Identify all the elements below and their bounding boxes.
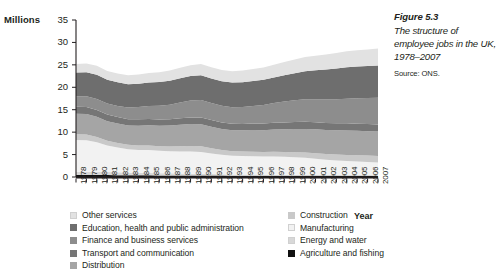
- legend-item-label: Other services: [82, 211, 137, 220]
- legend-item-label: Finance and business services: [82, 236, 198, 245]
- legend-column-left: Other servicesEducation, health and publ…: [70, 209, 244, 272]
- y-axis-tick-label: 30: [48, 36, 68, 47]
- y-axis-tick-label: 0: [48, 171, 68, 182]
- legend-item[interactable]: Manufacturing: [288, 222, 384, 235]
- x-axis-tick-label: 1978: [79, 167, 88, 184]
- legend-swatch-icon: [288, 224, 295, 231]
- x-axis-tick-label: 1987: [173, 167, 182, 184]
- legend-item-label: Agriculture and fishing: [300, 249, 384, 258]
- figure-source: Source: ONS.: [394, 68, 498, 79]
- x-axis-tick-label: 2001: [319, 167, 328, 184]
- stacked-area-chart: Millions 05101520253035 1978197919801981…: [0, 0, 390, 200]
- x-axis-tick-label: 1998: [287, 167, 296, 184]
- x-axis-tick-label: 1980: [100, 167, 109, 184]
- legend-item-label: Construction: [300, 211, 348, 220]
- y-axis-tick-label: 20: [48, 81, 68, 92]
- x-axis-tick-label: 1984: [142, 167, 151, 184]
- legend-item[interactable]: Transport and communication: [70, 247, 244, 260]
- x-axis-tick-label: 1985: [152, 167, 161, 184]
- legend-item-label: Transport and communication: [82, 249, 194, 258]
- legend-swatch-icon: [288, 237, 295, 244]
- y-axis-tick-label: 5: [48, 149, 68, 160]
- legend-item[interactable]: Finance and business services: [70, 234, 244, 247]
- x-axis-tick-label: 2007: [381, 167, 390, 184]
- x-axis-tick-label: 2005: [360, 167, 369, 184]
- x-axis-tick-label: 1991: [215, 167, 224, 184]
- x-axis-tick-label: 2006: [371, 167, 380, 184]
- legend-swatch-icon: [288, 212, 295, 219]
- x-axis-tick-label: 2002: [329, 167, 338, 184]
- chart-legend: Other servicesEducation, health and publ…: [70, 209, 490, 277]
- legend-column-right: ConstructionManufacturingEnergy and wate…: [288, 209, 384, 259]
- x-axis-tick-label: 2004: [350, 167, 359, 184]
- legend-item[interactable]: Energy and water: [288, 234, 384, 247]
- x-axis-tick-label: 1996: [267, 167, 276, 184]
- legend-item[interactable]: Education, health and public administrat…: [70, 222, 244, 235]
- y-axis-tick-label: 10: [48, 126, 68, 137]
- legend-swatch-icon: [70, 212, 77, 219]
- x-axis-tick-label: 1990: [204, 167, 213, 184]
- legend-swatch-icon: [70, 224, 77, 231]
- figure-number: Figure 5.3: [394, 10, 498, 23]
- x-axis-tick-label: 1993: [235, 167, 244, 184]
- legend-item-label: Manufacturing: [300, 224, 354, 233]
- legend-item-label: Education, health and public administrat…: [82, 224, 244, 233]
- legend-item-label: Distribution: [82, 261, 124, 270]
- figure-title: The structure of employee jobs in the UK…: [394, 24, 498, 64]
- y-axis-tick-label: 15: [48, 104, 68, 115]
- figure-caption: Figure 5.3 The structure of employee job…: [394, 10, 498, 79]
- x-axis-tick-label: 1988: [183, 167, 192, 184]
- figure-container: Millions 05101520253035 1978197919801981…: [0, 0, 501, 280]
- legend-swatch-icon: [70, 250, 77, 257]
- x-axis-tick-label: 1992: [225, 167, 234, 184]
- legend-swatch-icon: [288, 250, 295, 257]
- x-axis-tick-label: 1983: [131, 167, 140, 184]
- x-axis-tick-label: 1989: [194, 167, 203, 184]
- legend-swatch-icon: [70, 262, 77, 269]
- x-axis-tick-label: 1986: [163, 167, 172, 184]
- legend-item[interactable]: Other services: [70, 209, 244, 222]
- x-axis-tick-label: 2000: [308, 167, 317, 184]
- legend-swatch-icon: [70, 237, 77, 244]
- y-axis-tick-label: 35: [48, 14, 68, 25]
- legend-item[interactable]: Construction: [288, 209, 384, 222]
- x-axis-tick-label: 1981: [110, 167, 119, 184]
- x-axis-tick-label: 1997: [277, 167, 286, 184]
- legend-item[interactable]: Agriculture and fishing: [288, 247, 384, 260]
- legend-item[interactable]: Distribution: [70, 259, 244, 272]
- x-axis-tick-label: 2003: [340, 167, 349, 184]
- y-axis-tick-label: 25: [48, 59, 68, 70]
- x-axis-tick-label: 1999: [298, 167, 307, 184]
- x-axis-tick-label: 1982: [121, 167, 130, 184]
- legend-item-label: Energy and water: [300, 236, 367, 245]
- x-axis-tick-label: 1979: [90, 167, 99, 184]
- x-axis-tick-label: 1995: [256, 167, 265, 184]
- x-axis-tick-label: 1994: [246, 167, 255, 184]
